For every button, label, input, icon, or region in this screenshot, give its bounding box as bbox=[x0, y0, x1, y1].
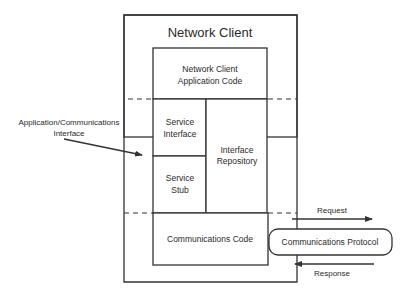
interface-repository-label-2: Repository bbox=[217, 156, 258, 166]
service-interface-block bbox=[153, 99, 206, 156]
service-interface-label-2: Interface bbox=[163, 129, 196, 139]
service-stub-label-1: Service bbox=[166, 173, 195, 183]
app-code-label-1: Network Client bbox=[182, 64, 238, 74]
app-comm-interface-label-2: Interface bbox=[53, 129, 85, 138]
service-stub-label-2: Stub bbox=[171, 185, 189, 195]
app-comm-interface-arrow bbox=[64, 139, 142, 155]
communications-code-label: Communications Code bbox=[167, 234, 253, 244]
app-code-label-2: Application Code bbox=[178, 76, 243, 86]
communications-protocol-label: Communications Protocol bbox=[282, 237, 379, 247]
interface-repository-label-1: Interface bbox=[220, 145, 253, 155]
service-interface-label-1: Service bbox=[166, 117, 195, 127]
request-label: Request bbox=[317, 206, 348, 215]
app-comm-interface-label-1: Application/Communications bbox=[19, 118, 120, 127]
network-client-title: Network Client bbox=[168, 25, 253, 40]
response-label: Response bbox=[314, 269, 351, 278]
